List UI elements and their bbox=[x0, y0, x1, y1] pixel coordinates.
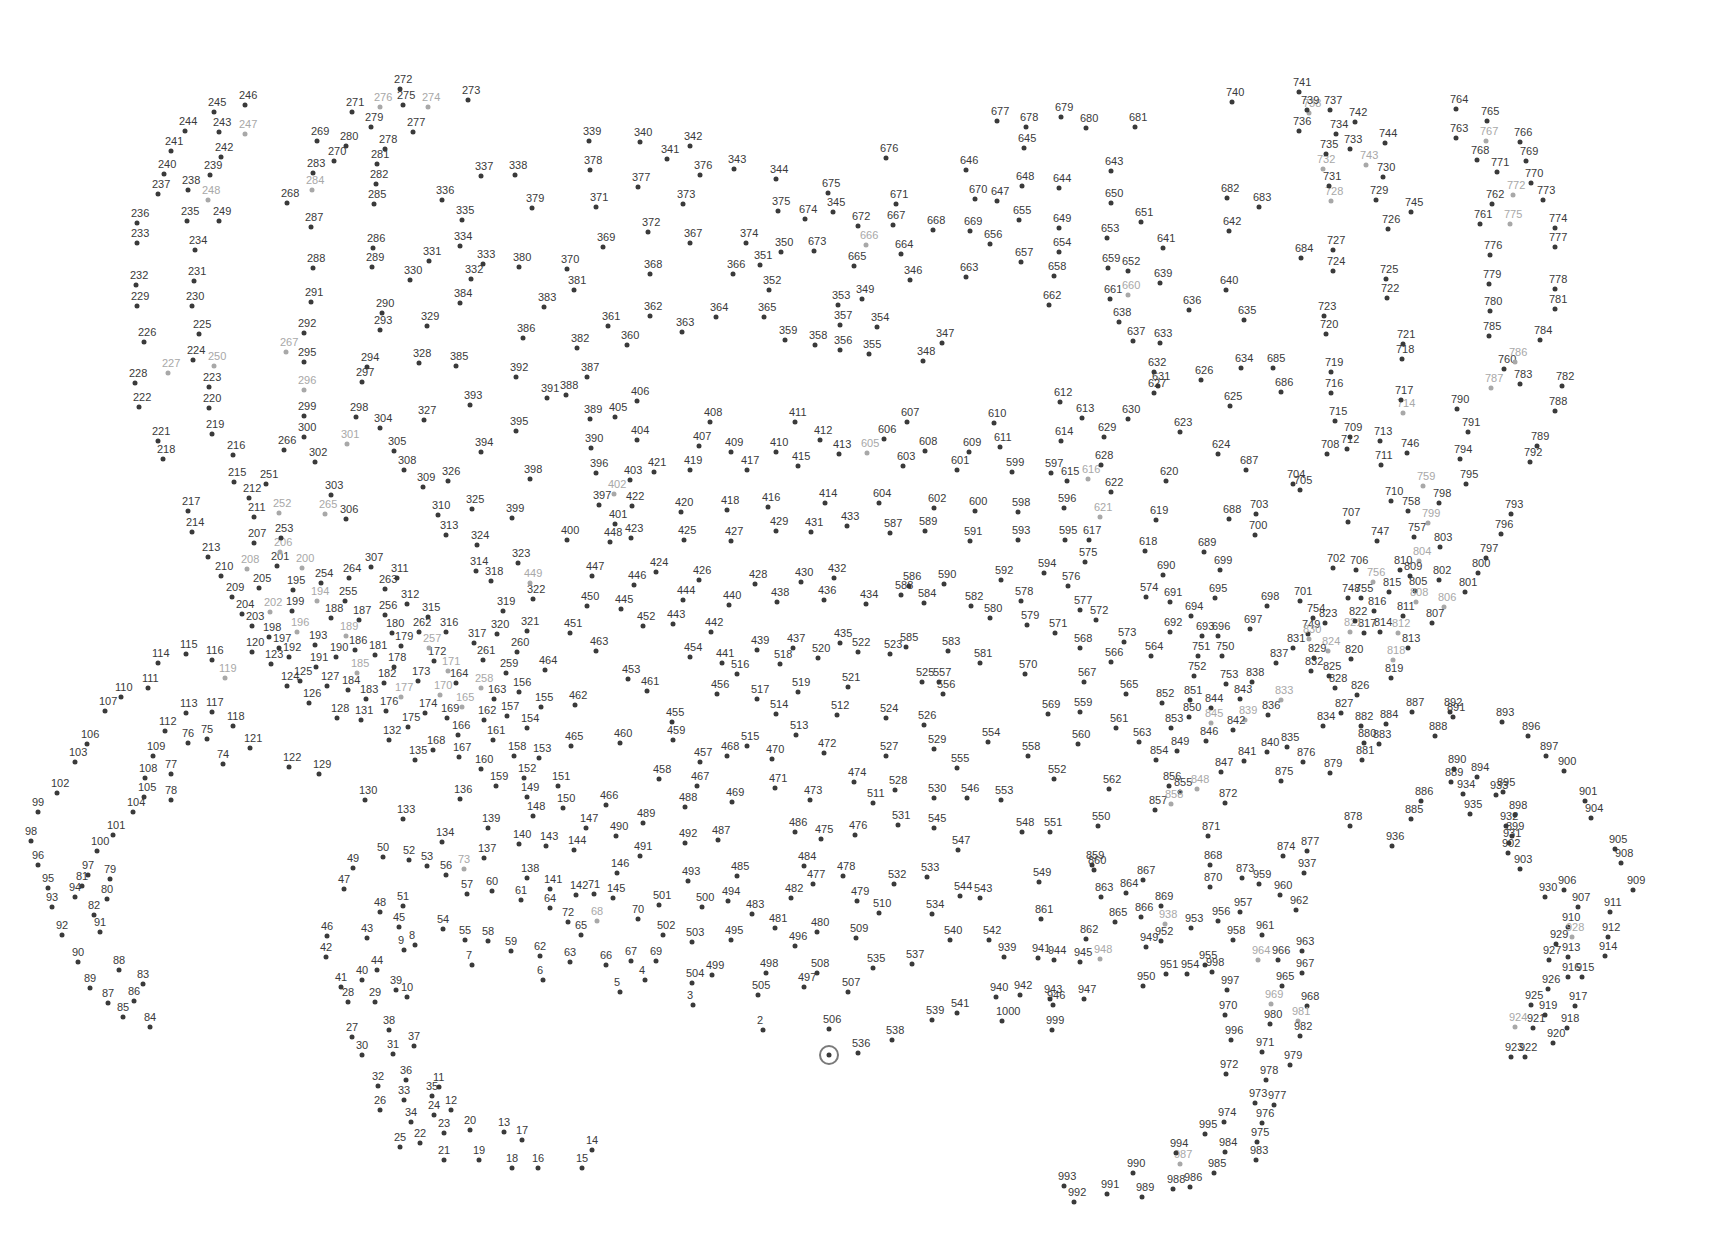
dot-906[interactable] bbox=[1562, 888, 1567, 893]
dot-214[interactable] bbox=[190, 530, 195, 535]
dot-555[interactable] bbox=[955, 766, 960, 771]
dot-675[interactable] bbox=[826, 191, 831, 196]
dot-639[interactable] bbox=[1158, 281, 1163, 286]
dot-812[interactable] bbox=[1396, 631, 1401, 636]
dot-793[interactable] bbox=[1509, 512, 1514, 517]
dot-524[interactable] bbox=[884, 716, 889, 721]
dot-132[interactable] bbox=[387, 738, 392, 743]
dot-196[interactable] bbox=[295, 630, 300, 635]
dot-846[interactable] bbox=[1204, 739, 1209, 744]
dot-20[interactable] bbox=[468, 1128, 473, 1133]
dot-815[interactable] bbox=[1387, 590, 1392, 595]
dot-268[interactable] bbox=[285, 201, 290, 206]
dot-531[interactable] bbox=[896, 823, 901, 828]
dot-97[interactable] bbox=[86, 873, 91, 878]
dot-476[interactable] bbox=[853, 833, 858, 838]
dot-632[interactable] bbox=[1152, 370, 1157, 375]
dot-31[interactable] bbox=[391, 1052, 396, 1057]
dot-90[interactable] bbox=[76, 960, 81, 965]
dot-38[interactable] bbox=[387, 1028, 392, 1033]
dot-548[interactable] bbox=[1020, 830, 1025, 835]
dot-325[interactable] bbox=[470, 507, 475, 512]
dot-213[interactable] bbox=[206, 555, 211, 560]
dot-677[interactable] bbox=[995, 119, 1000, 124]
dot-545[interactable] bbox=[932, 826, 937, 831]
dot-702[interactable] bbox=[1331, 566, 1336, 571]
dot-382[interactable] bbox=[575, 346, 580, 351]
dot-705[interactable] bbox=[1298, 488, 1303, 493]
dot-642[interactable] bbox=[1227, 229, 1232, 234]
dot-884[interactable] bbox=[1384, 722, 1389, 727]
dot-866[interactable] bbox=[1139, 915, 1144, 920]
dot-578[interactable] bbox=[1019, 599, 1024, 604]
dot-328[interactable] bbox=[417, 361, 422, 366]
dot-670[interactable] bbox=[973, 197, 978, 202]
dot-874[interactable] bbox=[1281, 854, 1286, 859]
dot-300[interactable] bbox=[302, 435, 307, 440]
dot-210[interactable] bbox=[219, 574, 224, 579]
dot-964[interactable] bbox=[1256, 958, 1261, 963]
dot-342[interactable] bbox=[688, 144, 693, 149]
dot-558[interactable] bbox=[1026, 754, 1031, 759]
dot-421[interactable] bbox=[652, 470, 657, 475]
dot-48[interactable] bbox=[378, 910, 383, 915]
dot-712[interactable] bbox=[1345, 447, 1350, 452]
dot-774[interactable] bbox=[1553, 226, 1558, 231]
dot-882[interactable] bbox=[1359, 724, 1364, 729]
dot-281[interactable] bbox=[375, 162, 380, 167]
dot-137[interactable] bbox=[482, 856, 487, 861]
dot-875[interactable] bbox=[1279, 779, 1284, 784]
dot-687[interactable] bbox=[1244, 468, 1249, 473]
dot-146[interactable] bbox=[615, 871, 620, 876]
dot-370[interactable] bbox=[565, 267, 570, 272]
dot-688[interactable] bbox=[1227, 517, 1232, 522]
dot-573[interactable] bbox=[1122, 640, 1127, 645]
dot-980[interactable] bbox=[1268, 1022, 1273, 1027]
dot-892[interactable] bbox=[1448, 710, 1453, 715]
dot-1000[interactable] bbox=[1000, 1019, 1005, 1024]
dot-409[interactable] bbox=[729, 450, 734, 455]
dot-848[interactable] bbox=[1195, 787, 1200, 792]
dot-831[interactable] bbox=[1291, 646, 1296, 651]
dot-745[interactable] bbox=[1409, 210, 1414, 215]
dot-956[interactable] bbox=[1216, 919, 1221, 924]
dot-221[interactable] bbox=[156, 439, 161, 444]
dot-584[interactable] bbox=[922, 601, 927, 606]
dot-338[interactable] bbox=[513, 173, 518, 178]
dot-133[interactable] bbox=[401, 817, 406, 822]
dot-147[interactable] bbox=[584, 826, 589, 831]
dot-792[interactable] bbox=[1528, 460, 1533, 465]
dot-368[interactable] bbox=[648, 272, 653, 277]
dot-347[interactable] bbox=[940, 341, 945, 346]
dot-922[interactable] bbox=[1523, 1055, 1528, 1060]
dot-820[interactable] bbox=[1349, 657, 1354, 662]
dot-685[interactable] bbox=[1271, 366, 1276, 371]
dot-663[interactable] bbox=[964, 275, 969, 280]
dot-72[interactable] bbox=[566, 920, 571, 925]
dot-779[interactable] bbox=[1487, 282, 1492, 287]
dot-733[interactable] bbox=[1348, 147, 1353, 152]
dot-967[interactable] bbox=[1300, 971, 1305, 976]
dot-439[interactable] bbox=[755, 648, 760, 653]
dot-411[interactable] bbox=[793, 420, 798, 425]
dot-39[interactable] bbox=[394, 988, 399, 993]
dot-346[interactable] bbox=[908, 278, 913, 283]
dot-144[interactable] bbox=[572, 848, 577, 853]
dot-74[interactable] bbox=[221, 762, 226, 767]
dot-237[interactable] bbox=[156, 192, 161, 197]
dot-128[interactable] bbox=[335, 716, 340, 721]
dot-94[interactable] bbox=[73, 895, 78, 900]
dot-363[interactable] bbox=[680, 330, 685, 335]
dot-861[interactable] bbox=[1039, 917, 1044, 922]
dot-36[interactable] bbox=[404, 1078, 409, 1083]
dot-383[interactable] bbox=[542, 305, 547, 310]
dot-595[interactable] bbox=[1063, 538, 1068, 543]
dot-924[interactable] bbox=[1513, 1025, 1518, 1030]
dot-95[interactable] bbox=[46, 886, 51, 891]
dot-403[interactable] bbox=[628, 478, 633, 483]
dot-343[interactable] bbox=[732, 167, 737, 172]
dot-920[interactable] bbox=[1551, 1041, 1556, 1046]
dot-565[interactable] bbox=[1124, 692, 1129, 697]
dot-76[interactable] bbox=[186, 741, 191, 746]
dot-640[interactable] bbox=[1224, 288, 1229, 293]
